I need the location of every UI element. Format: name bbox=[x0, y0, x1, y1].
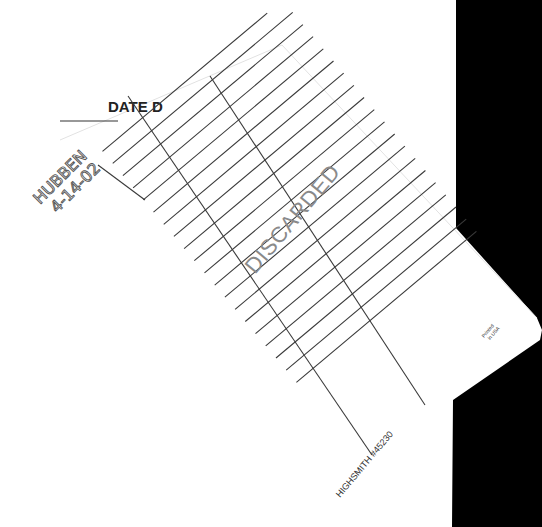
card-drawing: DATE D DISCARDED HUBBEN 4-14-02 HIGHSMIT… bbox=[0, 0, 542, 527]
rule-line bbox=[225, 146, 405, 297]
rule-line bbox=[103, 13, 268, 151]
rule-line bbox=[286, 219, 466, 370]
rule-line bbox=[256, 183, 436, 334]
printed-in-usa: Printed in USA bbox=[480, 321, 501, 343]
rule-line bbox=[296, 231, 476, 382]
manufacturer-imprint: HIGHSMITH #45230 bbox=[334, 429, 395, 499]
black-backdrop bbox=[452, 0, 542, 527]
handwritten-note: HUBBEN 4-14-02 bbox=[29, 146, 104, 221]
rule-line bbox=[113, 12, 293, 163]
scanned-date-due-card: DATE D DISCARDED HUBBEN 4-14-02 HIGHSMIT… bbox=[0, 0, 542, 527]
rule-line bbox=[276, 207, 456, 358]
rule-line bbox=[143, 49, 323, 200]
column-line bbox=[98, 165, 145, 200]
discarded-stamp: DISCARDED bbox=[240, 159, 345, 278]
column-line bbox=[128, 96, 372, 455]
